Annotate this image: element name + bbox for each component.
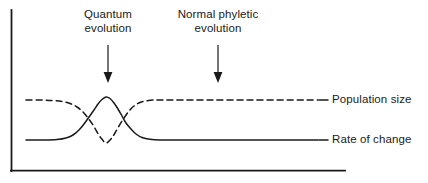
rate-of-change-label: Rate of change — [332, 133, 411, 146]
normal-phyletic-evolution-arrow — [214, 45, 223, 83]
figure-canvas: Quantum evolution Normal phyletic evolut… — [0, 0, 428, 183]
quantum-evolution-arrow-head — [104, 72, 113, 83]
population-size-label: Population size — [332, 93, 412, 106]
quantum-evolution-label: Quantum evolution — [58, 8, 158, 35]
quantum-evolution-arrow — [104, 45, 113, 83]
normal-phyletic-evolution-arrow-head — [214, 72, 223, 83]
annotation-arrows-group — [104, 45, 223, 83]
normal-phyletic-evolution-label: Normal phyletic evolution — [162, 8, 274, 35]
series-group — [26, 97, 318, 143]
legend-leaders-group — [319, 100, 328, 140]
